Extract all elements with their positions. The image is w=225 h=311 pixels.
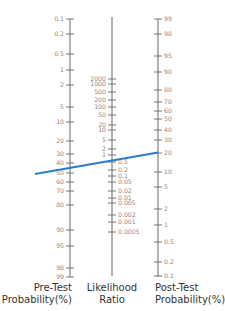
pre-test-tick-label: 30 (56, 150, 64, 157)
pre-test-tick-label: 70 (56, 187, 64, 194)
likelihood-ratio-tick-label: 1000 (90, 80, 106, 87)
post-test-tick-label: 20 (164, 149, 172, 156)
likelihood-ratio-tick-label: 50 (98, 111, 106, 118)
post-test-tick-label: 10 (164, 168, 172, 175)
post-test-tick-label: 1 (164, 221, 168, 228)
post-test-tick-label: 99 (164, 15, 172, 22)
likelihood-ratio-tick-label: 500 (94, 88, 106, 95)
pre-test-tick-label: 98 (56, 264, 64, 271)
lr-title-line1: Likelihood (87, 282, 137, 293)
post-test-tick-label: 0.2 (164, 258, 174, 265)
post-test-tick-label: 0.5 (164, 238, 174, 245)
pre-test-tick-label: 20 (56, 137, 64, 144)
likelihood-ratio-tick-label: 200 (94, 96, 106, 103)
pre-test-tick-label: 80 (56, 201, 64, 208)
likelihood-ratio-tick-label: 100 (94, 103, 106, 110)
post-test-tick-label: 2 (164, 205, 168, 212)
post-test-tick-label: 0.1 (164, 272, 174, 279)
post-test-title-line1: Post-Test (155, 282, 198, 293)
likelihood-ratio-tick-label: 0.001 (118, 218, 136, 225)
likelihood-ratio-tick-label: 0.005 (118, 199, 136, 206)
fagan-nomogram: 0.10.20.5125102030405060708090959899 200… (0, 0, 225, 311)
pre-test-tick-label: 0.5 (54, 50, 64, 57)
likelihood-ratio-ticks: 200010005002001005020105210.50.20.10.050… (90, 75, 139, 235)
likelihood-ratio-tick-label: 0.002 (118, 211, 136, 218)
post-test-tick-label: 70 (164, 98, 172, 105)
post-test-tick-label: 30 (164, 136, 172, 143)
post-test-ticks: 9998959080706050403020105210.50.20.1 (154, 15, 174, 279)
pre-test-tick-label: 2 (60, 81, 64, 88)
pre-test-ticks: 0.10.20.5125102030405060708090959899 (54, 15, 74, 280)
post-test-tick-label: 60 (164, 107, 172, 114)
post-test-title-line2: Probability(%) (155, 294, 225, 305)
pre-test-tick-label: 95 (56, 242, 64, 249)
likelihood-ratio-tick-label: 0.0005 (118, 228, 140, 235)
pre-test-title-line1: Pre-Test (34, 282, 72, 293)
post-test-tick-label: 40 (164, 126, 172, 133)
nomogram-result-line (35, 153, 158, 175)
post-test-tick-label: 80 (164, 86, 172, 93)
pre-test-tick-label: 60 (56, 178, 64, 185)
post-test-tick-label: 50 (164, 115, 172, 122)
pre-test-tick-label: 1 (60, 66, 64, 73)
pre-test-tick-label: 10 (56, 118, 64, 125)
likelihood-ratio-tick-label: 1 (102, 151, 106, 158)
likelihood-ratio-tick-label: 0.02 (118, 187, 132, 194)
post-test-tick-label: 95 (164, 52, 172, 59)
pre-test-tick-label: 40 (56, 159, 64, 166)
pre-test-tick-label: 99 (56, 273, 64, 280)
likelihood-ratio-tick-label: 0.05 (118, 178, 132, 185)
post-test-tick-label: 90 (164, 68, 172, 75)
likelihood-ratio-tick-label: 10 (98, 126, 106, 133)
lr-title-line2: Ratio (99, 294, 125, 305)
pre-test-tick-label: 90 (56, 226, 64, 233)
pre-test-tick-label: 0.2 (54, 30, 64, 37)
likelihood-ratio-tick-label: 5 (102, 136, 106, 143)
pre-test-tick-label: 5 (60, 103, 64, 110)
pre-test-tick-label: 0.1 (54, 15, 64, 22)
pre-test-title-line2: Probability(%) (2, 294, 72, 305)
post-test-tick-label: 5 (164, 183, 168, 190)
post-test-tick-label: 98 (164, 30, 172, 37)
